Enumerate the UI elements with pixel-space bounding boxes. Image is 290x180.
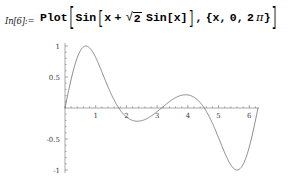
token-var-x: x bbox=[104, 12, 111, 24]
token-iter-var: x bbox=[213, 12, 220, 24]
token-close-bracket-1: ] bbox=[272, 6, 278, 29]
token-comma-3: , bbox=[237, 12, 244, 24]
y-tick-label: 0.5 bbox=[49, 74, 60, 82]
token-comma-2: , bbox=[220, 12, 227, 24]
token-pi-symbol: π bbox=[256, 12, 264, 24]
token-sin-outer: Sin bbox=[76, 12, 97, 24]
input-cell-label: In[6]:= bbox=[5, 16, 34, 26]
token-open-bracket-1: [ bbox=[69, 6, 75, 29]
token-close-bracket-3: ] bbox=[181, 12, 188, 24]
x-tick-label: 4 bbox=[186, 112, 191, 120]
x-tick-label: 6 bbox=[247, 112, 252, 120]
token-open-brace: { bbox=[206, 12, 213, 24]
output-plot-cell[interactable]: 123456-1-0.50.51 bbox=[0, 38, 290, 180]
input-expression[interactable]: Plot [ Sin [ x + √ 2 Sin [ x ] ] , { x ,… bbox=[40, 11, 278, 24]
token-radicand: 2 bbox=[133, 12, 141, 25]
token-iter-min: 0 bbox=[230, 12, 237, 24]
input-cell[interactable]: In[6]:= Plot [ Sin [ x + √ 2 Sin [ x ] ]… bbox=[0, 0, 290, 38]
tick-labels-group: 123456-1-0.50.51 bbox=[47, 43, 253, 175]
token-comma-1: , bbox=[195, 12, 202, 24]
token-close-bracket-2: ] bbox=[189, 9, 195, 27]
y-tick-label: -1 bbox=[53, 167, 60, 175]
token-open-bracket-2: [ bbox=[97, 9, 103, 27]
x-tick-label: 5 bbox=[216, 112, 220, 120]
plot-graphic[interactable]: 123456-1-0.50.51 bbox=[0, 38, 290, 180]
radical-sign-icon: √ bbox=[126, 12, 134, 25]
token-sin-inner: Sin bbox=[146, 12, 167, 24]
x-tick-label: 1 bbox=[93, 112, 97, 120]
token-var-x2: x bbox=[174, 12, 181, 24]
token-iter-max-coeff: 2 bbox=[247, 12, 254, 24]
token-close-brace: } bbox=[264, 12, 271, 24]
y-tick-label: -0.5 bbox=[47, 136, 61, 144]
y-tick-label: 1 bbox=[56, 43, 60, 51]
token-plus: + bbox=[114, 12, 121, 24]
token-plot-head: Plot bbox=[40, 12, 68, 24]
token-open-bracket-3: [ bbox=[167, 12, 174, 24]
sqrt-radical: √ 2 bbox=[126, 11, 142, 24]
